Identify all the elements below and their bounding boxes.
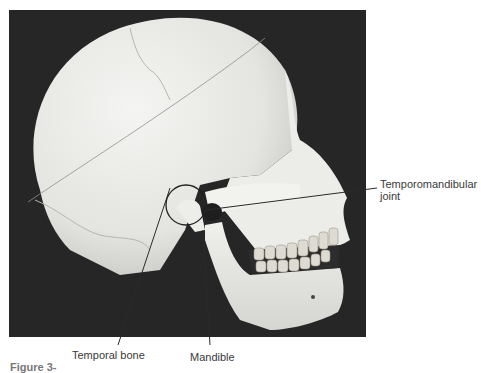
- skull-illustration: [9, 10, 366, 337]
- figure-caption-fragment: Figure 3-: [10, 361, 56, 373]
- skull-photograph: [9, 10, 366, 337]
- temporal-bone-label: Temporal bone: [72, 349, 145, 361]
- mandible-label: Mandible: [190, 351, 235, 363]
- tmj-label-line1: Temporomandibular: [380, 178, 477, 190]
- tmj-label: Temporomandibular joint: [380, 178, 477, 202]
- tmj-label-line2: joint: [380, 190, 477, 202]
